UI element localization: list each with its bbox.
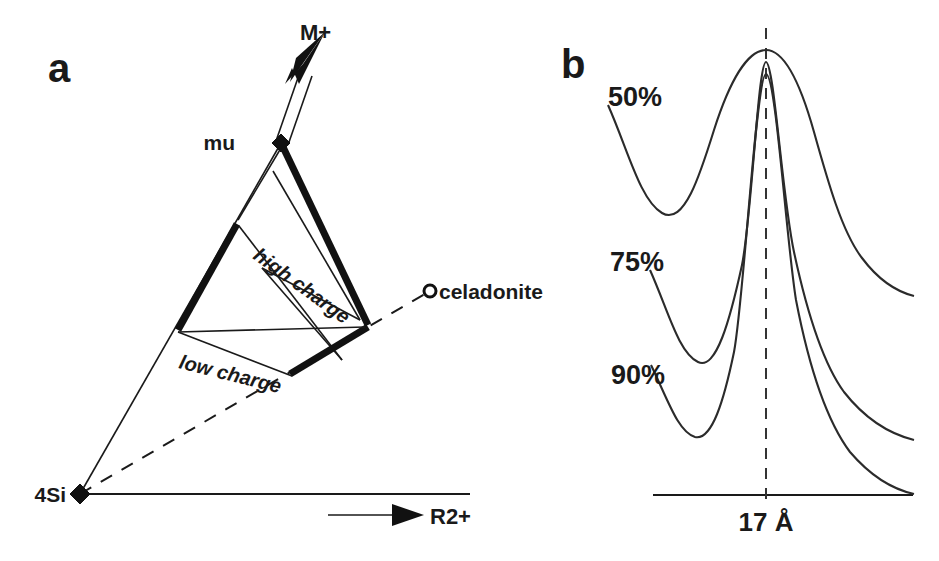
marker-4si bbox=[70, 484, 90, 504]
connector-mu-to-node bbox=[238, 148, 281, 220]
low-charge-right-edge bbox=[290, 327, 368, 374]
r2-plus-arrowhead bbox=[392, 504, 424, 526]
figure-root: a M+ bbox=[0, 0, 939, 561]
panel-b: b 50% 75% 90% 17 Å bbox=[561, 28, 914, 537]
curve-label-50: 50% bbox=[608, 82, 662, 112]
curve-90 bbox=[651, 74, 914, 494]
celadonite-label: celadonite bbox=[439, 280, 543, 303]
m-plus-label: M+ bbox=[300, 20, 331, 45]
panel-a-letter: a bbox=[48, 46, 71, 90]
x-tick-label-17a: 17 Å bbox=[739, 507, 794, 537]
m-plus-vector bbox=[276, 32, 325, 145]
marker-celadonite bbox=[424, 285, 436, 297]
figure-canvas: a M+ bbox=[0, 0, 939, 561]
curve-75 bbox=[650, 62, 914, 440]
mu-label: mu bbox=[204, 131, 236, 154]
panel-a: a M+ bbox=[34, 20, 542, 529]
r2-plus-label: R2+ bbox=[430, 504, 471, 529]
curve-label-90: 90% bbox=[611, 360, 665, 390]
low-charge-top-line bbox=[178, 327, 365, 332]
curve-label-75: 75% bbox=[610, 247, 664, 277]
low-charge-label: low charge bbox=[177, 351, 284, 398]
r2-plus-arrow bbox=[328, 504, 424, 526]
ray-origin-to-celadonite bbox=[80, 291, 430, 494]
charge-left-edge-upper bbox=[178, 224, 237, 330]
four-si-label: 4Si bbox=[34, 483, 66, 506]
panel-b-letter: b bbox=[561, 42, 585, 86]
